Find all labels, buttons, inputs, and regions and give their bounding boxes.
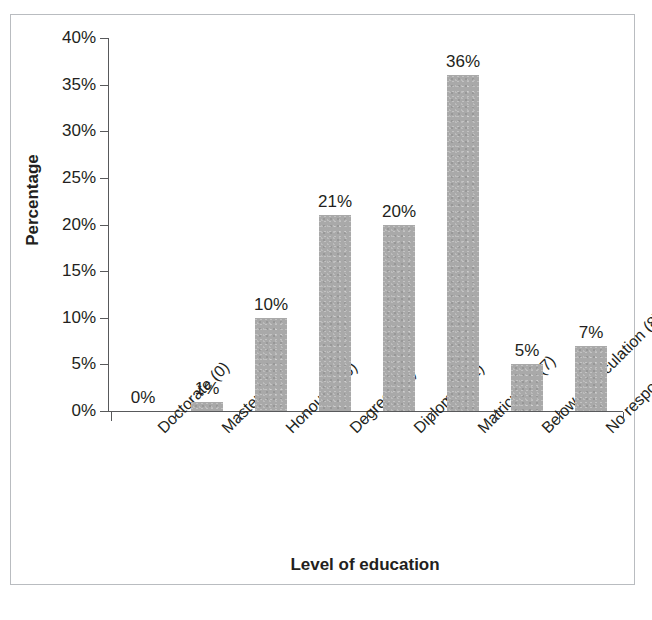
x-axis-title: Level of education — [108, 555, 622, 575]
bar — [191, 402, 223, 411]
y-axis-tick — [100, 364, 108, 365]
bar-value-label: 10% — [241, 296, 301, 313]
bar-value-label: 0% — [113, 389, 173, 406]
bar — [383, 225, 415, 412]
x-axis-tick — [495, 412, 496, 421]
bar — [575, 346, 607, 411]
y-axis-tick-label: 25% — [0, 169, 96, 186]
y-axis-tick-label: 40% — [0, 29, 96, 46]
bar — [447, 75, 479, 411]
x-axis-tick — [239, 412, 240, 421]
x-axis-tick — [559, 412, 560, 421]
y-axis-tick-label: 30% — [0, 122, 96, 139]
y-axis-tick — [100, 411, 108, 412]
x-axis-tick — [303, 412, 304, 421]
bar — [511, 364, 543, 411]
y-axis-tick-label: 5% — [0, 355, 96, 372]
y-axis-tick-label: 10% — [0, 309, 96, 326]
y-axis-tick — [100, 131, 108, 132]
x-axis-tick — [623, 412, 624, 421]
x-axis-tick — [431, 412, 432, 421]
bar-value-label: 36% — [433, 53, 493, 70]
y-axis-tick — [100, 225, 108, 226]
bar-value-label: 5% — [497, 342, 557, 359]
bar — [319, 215, 351, 411]
y-axis-title: Percentage — [23, 120, 43, 280]
bar-value-label: 7% — [561, 324, 621, 341]
y-axis-tick — [100, 271, 108, 272]
bar-value-label: 20% — [369, 203, 429, 220]
x-axis-tick — [175, 412, 176, 421]
y-axis-tick — [100, 178, 108, 179]
chart-screenshot: { "chart_data": { "type": "bar", "title"… — [0, 0, 652, 620]
y-axis-tick — [100, 38, 108, 39]
y-axis-tick-label: 15% — [0, 262, 96, 279]
y-axis-tick — [100, 318, 108, 319]
y-axis-tick-label: 20% — [0, 216, 96, 233]
y-axis-tick — [100, 85, 108, 86]
y-axis-tick-label: 35% — [0, 76, 96, 93]
y-axis-tick-label: 0% — [0, 402, 96, 419]
y-axis-line — [108, 38, 109, 412]
figure-caption — [108, 604, 538, 618]
x-axis-tick — [111, 412, 112, 421]
bar-value-label: 1% — [177, 380, 237, 397]
x-axis-tick — [367, 412, 368, 421]
bar — [255, 318, 287, 411]
bar-value-label: 21% — [305, 193, 365, 210]
